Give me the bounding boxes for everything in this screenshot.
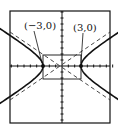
right-vertex-label: (3,0) — [73, 22, 97, 33]
hyperbola-graph: (−3,0) (3,0) — [0, 0, 118, 129]
right-vertex-point — [79, 64, 83, 68]
left-vertex-point — [41, 64, 45, 68]
left-vertex-label: (−3,0) — [24, 20, 56, 31]
